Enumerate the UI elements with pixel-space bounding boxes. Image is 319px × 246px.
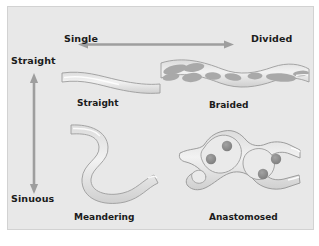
caption-anastomosed: Anastomosed bbox=[209, 212, 278, 223]
axis-label-divided: Divided bbox=[251, 33, 292, 44]
anastomosed-channel-graphic bbox=[179, 131, 300, 190]
channel-pattern-figure: Single Divided Straight Sinuous Straight… bbox=[0, 0, 319, 246]
diagram-panel: Single Divided Straight Sinuous Straight… bbox=[7, 6, 314, 230]
vegetation-clump bbox=[271, 154, 281, 164]
axis-label-single: Single bbox=[64, 33, 98, 44]
axis-label-straight: Straight bbox=[11, 55, 56, 66]
vegetation-clump bbox=[222, 141, 232, 151]
axis-label-sinuous: Sinuous bbox=[11, 193, 54, 204]
vertical-axis-arrow bbox=[30, 73, 38, 194]
vegetation-clump bbox=[258, 169, 268, 179]
straight-channel-graphic bbox=[62, 72, 160, 93]
caption-meandering: Meandering bbox=[74, 212, 134, 223]
meandering-channel-graphic bbox=[71, 125, 158, 204]
vegetation-clump bbox=[206, 154, 216, 164]
caption-straight: Straight bbox=[77, 98, 119, 109]
island-shape bbox=[192, 170, 206, 183]
horizontal-axis-arrow bbox=[78, 40, 234, 48]
braided-channel-graphic bbox=[161, 60, 309, 87]
caption-braided: Braided bbox=[209, 100, 248, 111]
